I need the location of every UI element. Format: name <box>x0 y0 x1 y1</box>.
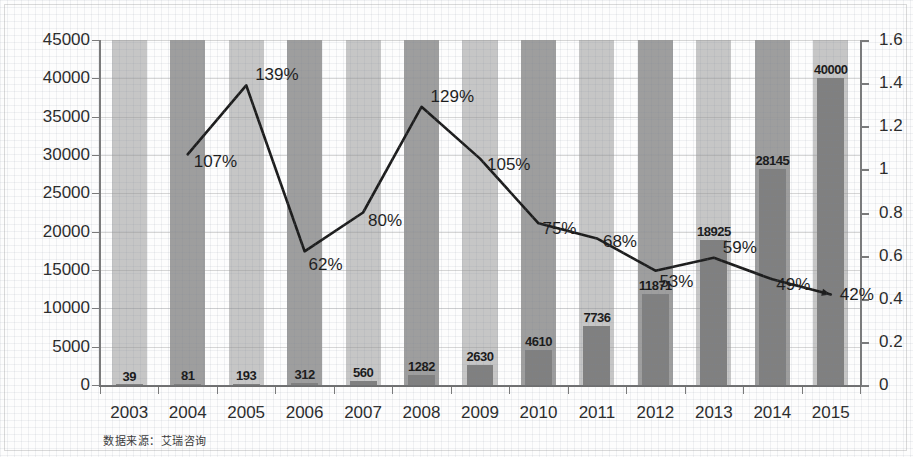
growth-rate-label: 59% <box>723 238 757 258</box>
y-axis-left-tick-mark <box>92 193 99 194</box>
x-axis-tick-mark <box>334 387 335 394</box>
x-axis-tick-mark <box>860 387 861 394</box>
y-axis-right-tick-mark <box>861 169 869 171</box>
x-axis-tick-label: 2007 <box>334 403 392 423</box>
x-axis-tick-mark <box>685 387 686 394</box>
y-axis-right-tick-mark <box>861 385 869 387</box>
y-axis-left-tick-mark <box>92 232 99 233</box>
x-axis-tick-mark <box>217 387 218 394</box>
y-axis-right-tick-label: 1.2 <box>879 116 903 136</box>
x-axis-tick-mark <box>158 387 159 394</box>
bar-value-label: 4610 <box>498 334 578 349</box>
y-axis-left-tick-mark <box>92 347 99 348</box>
y-axis-left-tick-label: 15000 <box>12 260 90 280</box>
x-axis-tick-label: 2010 <box>509 403 567 423</box>
gridline <box>100 193 860 194</box>
x-axis-tick-mark <box>100 387 101 394</box>
growth-rate-label: 107% <box>194 152 237 172</box>
y-axis-left-tick-label: 20000 <box>12 222 90 242</box>
y-axis-left-tick-mark <box>92 117 99 118</box>
bar <box>467 365 494 385</box>
chart-figure: 0500010000150002000025000300003500040000… <box>0 0 913 457</box>
y-axis-left-tick-label: 5000 <box>12 337 90 357</box>
bar <box>817 78 844 385</box>
growth-rate-label: 75% <box>542 219 576 239</box>
y-axis-left-tick-label: 0 <box>12 375 90 395</box>
growth-rate-label: 105% <box>487 155 530 175</box>
y-axis-left-tick-mark <box>92 385 99 386</box>
y-axis-left-tick-label: 30000 <box>12 145 90 165</box>
y-axis-left-tick-label: 40000 <box>12 68 90 88</box>
x-axis-tick-label: 2011 <box>568 403 626 423</box>
y-axis-right-tick-label: 0.6 <box>879 246 903 266</box>
x-axis-line <box>99 385 862 387</box>
y-axis-right-tick-label: 0.4 <box>879 289 903 309</box>
y-axis-right-tick-mark <box>861 40 869 42</box>
y-axis-left-tick-mark <box>92 308 99 309</box>
y-axis-left-tick-mark <box>92 78 99 79</box>
background-band <box>229 40 264 385</box>
x-axis-tick-label: 2006 <box>276 403 334 423</box>
y-axis-left-tick-mark <box>92 270 99 271</box>
x-axis-tick-mark <box>275 387 276 394</box>
y-axis-left-tick-mark <box>92 155 99 156</box>
source-note: 数据来源：艾瑞咨询 <box>103 432 207 448</box>
chart-page: 0500010000150002000025000300003500040000… <box>0 0 913 457</box>
x-axis-tick-label: 2003 <box>100 403 158 423</box>
x-axis-tick-label: 2012 <box>626 403 684 423</box>
y-axis-left-tick-label: 45000 <box>12 30 90 50</box>
y-axis-left-tick-mark <box>92 40 99 41</box>
x-axis-tick-mark <box>392 387 393 394</box>
y-axis-right-tick-label: 1 <box>879 159 888 179</box>
growth-rate-label: 80% <box>368 211 402 231</box>
x-axis-tick-label: 2013 <box>685 403 743 423</box>
x-axis-tick-label: 2004 <box>159 403 217 423</box>
background-band <box>170 40 205 385</box>
growth-rate-label: 49% <box>776 275 810 295</box>
gridline <box>100 117 860 118</box>
x-axis-tick-label: 2009 <box>451 403 509 423</box>
y-axis-right-tick-mark <box>861 83 869 85</box>
bar-value-label: 7736 <box>557 310 637 325</box>
y-axis-left-tick-label: 25000 <box>12 183 90 203</box>
x-axis-tick-mark <box>802 387 803 394</box>
y-axis-left-tick-label: 35000 <box>12 107 90 127</box>
x-axis-tick-mark <box>451 387 452 394</box>
gridline <box>100 270 860 271</box>
x-axis-tick-mark <box>743 387 744 394</box>
x-axis-tick-label: 2008 <box>393 403 451 423</box>
gridline <box>100 308 860 309</box>
bar-value-label: 2630 <box>440 349 520 364</box>
y-axis-left-line <box>99 40 101 385</box>
x-axis-tick-mark <box>568 387 569 394</box>
bar <box>525 350 552 385</box>
x-axis-tick-mark <box>509 387 510 394</box>
x-axis-tick-label: 2014 <box>743 403 801 423</box>
background-band <box>112 40 147 385</box>
bar <box>642 294 669 385</box>
growth-rate-label: 62% <box>309 255 343 275</box>
gridline <box>100 78 860 79</box>
growth-rate-label: 42% <box>840 285 874 305</box>
growth-rate-label: 129% <box>431 87 474 107</box>
growth-rate-label: 68% <box>603 232 637 252</box>
plot-area <box>100 40 860 385</box>
growth-rate-label: 139% <box>255 65 298 85</box>
y-axis-right-tick-mark <box>861 342 869 344</box>
y-axis-right-tick-label: 1.6 <box>879 30 903 50</box>
bar <box>700 240 727 385</box>
growth-rate-label: 53% <box>659 272 693 292</box>
gridline <box>100 347 860 348</box>
y-axis-right-tick-label: 0.8 <box>879 203 903 223</box>
x-axis-tick-label: 2005 <box>217 403 275 423</box>
y-axis-right-tick-mark <box>861 213 869 215</box>
y-axis-right-tick-label: 1.4 <box>879 73 903 93</box>
bar-value-label: 40000 <box>791 62 871 77</box>
bar <box>408 375 435 385</box>
background-band <box>287 40 322 385</box>
x-axis-tick-label: 2015 <box>802 403 860 423</box>
y-axis-right-tick-mark <box>861 126 869 128</box>
y-axis-left-tick-label: 10000 <box>12 298 90 318</box>
bar-value-label: 28145 <box>732 153 812 168</box>
gridline <box>100 40 860 41</box>
